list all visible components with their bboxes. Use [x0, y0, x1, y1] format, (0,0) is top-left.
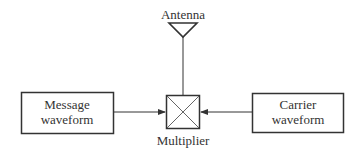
antenna-label: Antenna	[161, 7, 205, 22]
multiplier: Multiplier	[157, 96, 210, 149]
message-label-line1: Message	[44, 97, 90, 112]
carrier-waveform-block: Carrier waveform	[253, 94, 344, 133]
antenna-icon	[169, 23, 197, 37]
multiplier-label: Multiplier	[157, 133, 210, 148]
antenna: Antenna	[161, 7, 205, 95]
block-diagram: Antenna Message waveform Multiplier Carr…	[0, 0, 364, 151]
message-waveform-block: Message waveform	[22, 93, 114, 134]
carrier-label-line2: waveform	[272, 112, 325, 127]
carrier-label-line1: Carrier	[280, 97, 317, 112]
message-label-line2: waveform	[41, 112, 94, 127]
